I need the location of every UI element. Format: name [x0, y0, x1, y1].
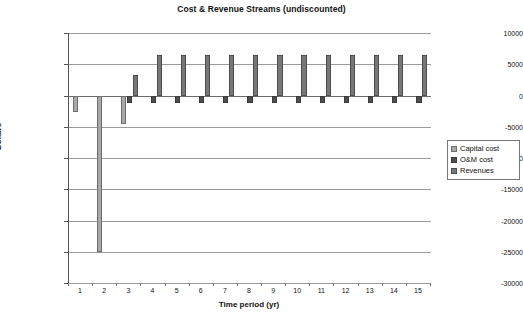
bar: [229, 55, 234, 96]
x-tick-mark: [261, 283, 262, 286]
bar: [344, 96, 349, 104]
legend-item[interactable]: O&M cost: [451, 154, 517, 165]
bar: [374, 55, 379, 96]
legend-swatch-icon: [451, 157, 457, 163]
y-tick-mark: [64, 221, 69, 222]
chart-figure: Cost & Revenue Streams (undiscounted) Do…: [0, 0, 523, 318]
legend-label: Capital cost: [460, 144, 499, 153]
legend-label: Revenues: [460, 166, 494, 175]
bar: [121, 96, 126, 124]
y-tick-label: -20000: [461, 217, 523, 224]
x-tick-label: 7: [215, 287, 235, 294]
bar: [127, 96, 132, 104]
x-tick-mark: [68, 283, 69, 286]
bar: [199, 96, 204, 104]
bar: [181, 55, 186, 96]
x-tick-label: 1: [70, 287, 90, 294]
bar: [398, 55, 403, 96]
bar: [326, 55, 331, 96]
x-tick-label: 8: [239, 287, 259, 294]
x-tick-label: 3: [118, 287, 138, 294]
y-tick-label: -25000: [461, 248, 523, 255]
y-tick-mark: [64, 158, 69, 159]
bar: [320, 96, 325, 104]
y-tick-label: -15000: [461, 186, 523, 193]
y-tick-mark: [64, 64, 69, 65]
x-axis-label: Time period (yr): [68, 300, 430, 309]
bar: [175, 96, 180, 104]
bar: [73, 96, 78, 113]
x-tick-mark: [140, 283, 141, 286]
bar: [277, 55, 282, 96]
plot-area: [68, 33, 430, 283]
gridline: [69, 158, 431, 159]
x-tick-label: 9: [263, 287, 283, 294]
y-tick-label: -30000: [461, 280, 523, 287]
gridline: [69, 127, 431, 128]
bar: [296, 96, 301, 104]
y-tick-label: 10000: [461, 30, 523, 37]
bar: [133, 75, 138, 96]
legend-swatch-icon: [451, 146, 457, 152]
x-tick-label: 12: [336, 287, 356, 294]
y-tick-label: 0: [461, 92, 523, 99]
x-tick-mark: [92, 283, 93, 286]
x-tick-label: 11: [311, 287, 331, 294]
x-tick-label: 10: [287, 287, 307, 294]
bar: [368, 96, 373, 104]
x-tick-label: 15: [408, 287, 428, 294]
bar: [157, 55, 162, 96]
chart-legend: Capital costO&M costRevenues: [447, 140, 520, 180]
x-tick-mark: [116, 283, 117, 286]
x-tick-label: 14: [384, 287, 404, 294]
x-tick-label: 5: [167, 287, 187, 294]
y-tick-mark: [64, 127, 69, 128]
y-tick-mark: [64, 96, 69, 97]
bar: [301, 55, 306, 96]
gridline: [69, 252, 431, 253]
x-tick-mark: [285, 283, 286, 286]
x-tick-mark: [358, 283, 359, 286]
bar: [392, 96, 397, 104]
bar: [253, 55, 258, 96]
x-tick-mark: [309, 283, 310, 286]
legend-item[interactable]: Capital cost: [451, 143, 517, 154]
y-axis-label: Dollars: [0, 123, 3, 150]
x-tick-label: 2: [94, 287, 114, 294]
x-tick-label: 13: [360, 287, 380, 294]
y-tick-mark: [64, 252, 69, 253]
x-tick-label: 6: [191, 287, 211, 294]
legend-label: O&M cost: [460, 155, 493, 164]
bar: [223, 96, 228, 104]
x-tick-mark: [237, 283, 238, 286]
bar: [350, 55, 355, 96]
legend-item[interactable]: Revenues: [451, 165, 517, 176]
chart-title: Cost & Revenue Streams (undiscounted): [0, 4, 523, 14]
bar: [205, 55, 210, 96]
gridline: [69, 189, 431, 190]
x-tick-mark: [333, 283, 334, 286]
bar: [416, 96, 421, 104]
x-tick-mark: [382, 283, 383, 286]
y-tick-label: -5000: [461, 123, 523, 130]
x-tick-mark: [430, 283, 431, 286]
gridline: [69, 33, 431, 34]
x-tick-mark: [213, 283, 214, 286]
x-tick-mark: [189, 283, 190, 286]
bar: [422, 55, 427, 96]
x-tick-label: 4: [142, 287, 162, 294]
x-tick-mark: [406, 283, 407, 286]
gridline: [69, 283, 431, 284]
y-tick-label: 5000: [461, 61, 523, 68]
legend-swatch-icon: [451, 168, 457, 174]
y-tick-mark: [64, 189, 69, 190]
gridline: [69, 221, 431, 222]
y-tick-mark: [64, 33, 69, 34]
bar: [247, 96, 252, 104]
bar: [272, 96, 277, 104]
x-tick-mark: [165, 283, 166, 286]
bar: [97, 96, 102, 252]
bar: [151, 96, 156, 104]
